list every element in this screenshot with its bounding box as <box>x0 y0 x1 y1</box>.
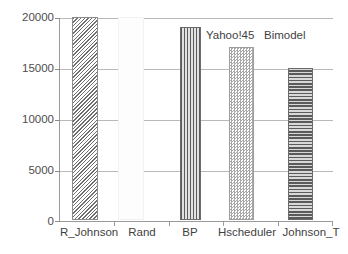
y-tick-label-20000: 20000 <box>22 12 54 24</box>
y-tick-label-10000: 10000 <box>22 114 54 126</box>
y-tick-label-5000: 5000 <box>28 165 54 177</box>
bar-johnson-t <box>288 68 313 220</box>
bar-r-johnson <box>72 17 98 220</box>
annotation-yahoo45: Yahoo!45 <box>206 29 254 41</box>
bar-bp <box>180 27 201 220</box>
y-tick-mark-10000 <box>55 120 60 121</box>
y-tick-mark-15000 <box>55 69 60 70</box>
y-tick-mark-5000 <box>55 171 60 172</box>
x-category-label-johnson-t: Johnson_T <box>279 226 343 239</box>
y-tick-label-0: 0 <box>48 216 54 228</box>
plot-area <box>59 18 332 222</box>
x-category-label-rand: Rand <box>118 226 166 239</box>
y-tick-label-15000: 15000 <box>22 63 54 75</box>
x-category-label-bp: BP <box>170 226 210 239</box>
gridline-20000 <box>60 18 333 19</box>
bar-hscheduler <box>229 47 254 220</box>
x-category-label-r-johnson: R_Johnson <box>60 226 114 239</box>
y-tick-mark-0 <box>55 221 60 222</box>
bar-chart: 20000 15000 10000 5000 0 Yahoo!45 Bimode… <box>0 0 348 254</box>
annotation-bimodel: Bimodel <box>264 29 306 41</box>
bar-rand <box>118 17 144 220</box>
y-tick-mark-20000 <box>55 18 60 19</box>
x-category-label-hscheduler: Hscheduler <box>215 226 279 239</box>
